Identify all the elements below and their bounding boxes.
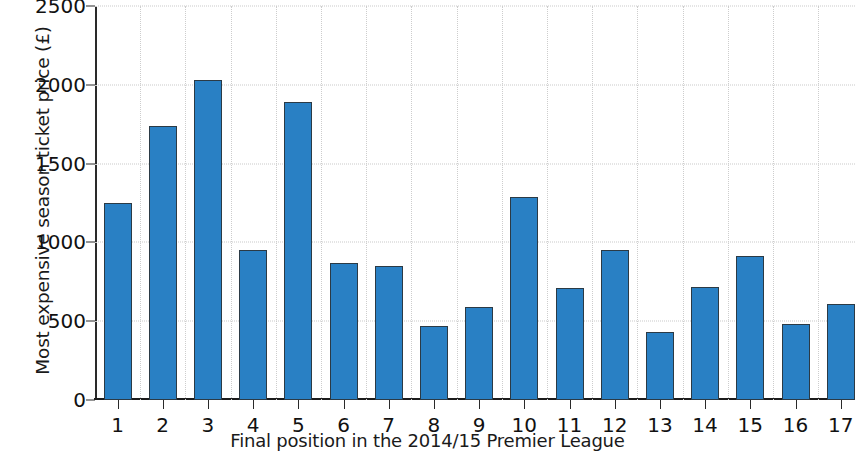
x-axis-title: Final position in the 2014/15 Premier Le… xyxy=(0,430,855,451)
bar xyxy=(194,80,222,400)
bar xyxy=(601,250,629,401)
bar xyxy=(556,288,584,400)
y-tick-mark xyxy=(86,163,95,164)
y-tick-mark xyxy=(86,400,95,401)
bar xyxy=(827,304,855,400)
x-tick-mark xyxy=(298,400,299,409)
vertical-gridline xyxy=(276,6,277,400)
vertical-gridline xyxy=(547,6,548,400)
bar xyxy=(691,287,719,400)
vertical-gridline xyxy=(366,6,367,400)
y-tick-label: 0 xyxy=(73,388,86,412)
y-tick-mark xyxy=(86,321,95,322)
vertical-gridline xyxy=(321,6,322,400)
x-tick-mark xyxy=(253,400,254,409)
x-tick-mark xyxy=(615,400,616,409)
x-tick-mark xyxy=(389,400,390,409)
bar xyxy=(375,266,403,400)
x-tick-mark xyxy=(705,400,706,409)
vertical-gridline xyxy=(411,6,412,400)
bar xyxy=(104,203,132,400)
x-tick-mark xyxy=(524,400,525,409)
x-tick-mark xyxy=(163,400,164,409)
y-tick-label: 500 xyxy=(48,309,86,333)
x-tick-mark xyxy=(479,400,480,409)
bar xyxy=(510,197,538,400)
bar xyxy=(646,332,674,400)
x-tick-mark xyxy=(660,400,661,409)
y-tick-label: 1000 xyxy=(35,230,86,254)
x-tick-mark xyxy=(208,400,209,409)
y-tick-label: 1500 xyxy=(35,151,86,175)
vertical-gridline xyxy=(457,6,458,400)
bar xyxy=(149,126,177,400)
x-tick-mark xyxy=(570,400,571,409)
y-tick-mark xyxy=(86,84,95,85)
horizontal-gridline xyxy=(95,6,855,7)
vertical-gridline xyxy=(185,6,186,400)
y-tick-mark xyxy=(86,242,95,243)
x-tick-mark xyxy=(841,400,842,409)
bar xyxy=(420,326,448,400)
x-tick-mark xyxy=(434,400,435,409)
y-tick-label: 2500 xyxy=(35,0,86,18)
x-tick-mark xyxy=(750,400,751,409)
x-tick-mark xyxy=(796,400,797,409)
vertical-gridline xyxy=(773,6,774,400)
vertical-gridline xyxy=(231,6,232,400)
bar xyxy=(465,307,493,400)
vertical-gridline xyxy=(592,6,593,400)
bar xyxy=(782,324,810,400)
y-tick-label: 2000 xyxy=(35,72,86,96)
bar xyxy=(736,256,764,400)
vertical-gridline xyxy=(728,6,729,400)
bar xyxy=(284,102,312,400)
y-axis-line xyxy=(95,6,97,400)
vertical-gridline xyxy=(683,6,684,400)
x-tick-mark xyxy=(344,400,345,409)
y-tick-mark xyxy=(86,6,95,7)
x-tick-mark xyxy=(118,400,119,409)
bar xyxy=(239,250,267,400)
y-axis-title: Most expensive season ticket price (£) xyxy=(32,1,53,401)
plot-area: 05001000150020002500 1234567891011121314… xyxy=(95,6,855,400)
vertical-gridline xyxy=(140,6,141,400)
vertical-gridline xyxy=(818,6,819,400)
bar xyxy=(330,263,358,400)
vertical-gridline xyxy=(637,6,638,400)
vertical-gridline xyxy=(502,6,503,400)
chart-figure: Most expensive season ticket price (£) 0… xyxy=(0,0,855,456)
